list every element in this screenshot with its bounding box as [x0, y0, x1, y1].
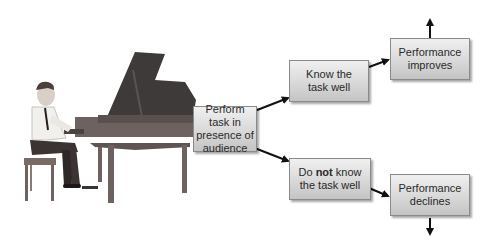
arrow-know-improves [369, 60, 388, 67]
node-line: declines [410, 195, 450, 208]
arrow-notknow-declines [369, 188, 388, 196]
node-line: presence of [196, 129, 253, 142]
node-line: Perform task in [194, 103, 256, 129]
node-line: the task well [300, 179, 361, 192]
node-know-task: Know the task well [289, 60, 369, 102]
node-line: Know the [306, 68, 352, 81]
arrow-start-know [252, 98, 288, 112]
node-not-know-task: Do not know the task well [289, 158, 371, 200]
text-pre: Do [299, 166, 316, 178]
node-line: Performance [399, 46, 462, 59]
node-performance-improves: Performance improves [390, 38, 470, 80]
text-post: know [333, 166, 362, 178]
piano-illustration [24, 52, 196, 203]
node-performance-declines: Performance declines [390, 174, 470, 216]
text-bold: not [316, 166, 333, 178]
node-line: audience [203, 142, 248, 155]
node-line: Do not know [299, 166, 362, 179]
node-line: improves [408, 59, 453, 72]
arrow-start-notknow [252, 147, 288, 161]
node-line: Performance [399, 182, 462, 195]
node-line: task well [308, 81, 350, 94]
node-perform-task: Perform task in presence of audience [193, 106, 257, 152]
